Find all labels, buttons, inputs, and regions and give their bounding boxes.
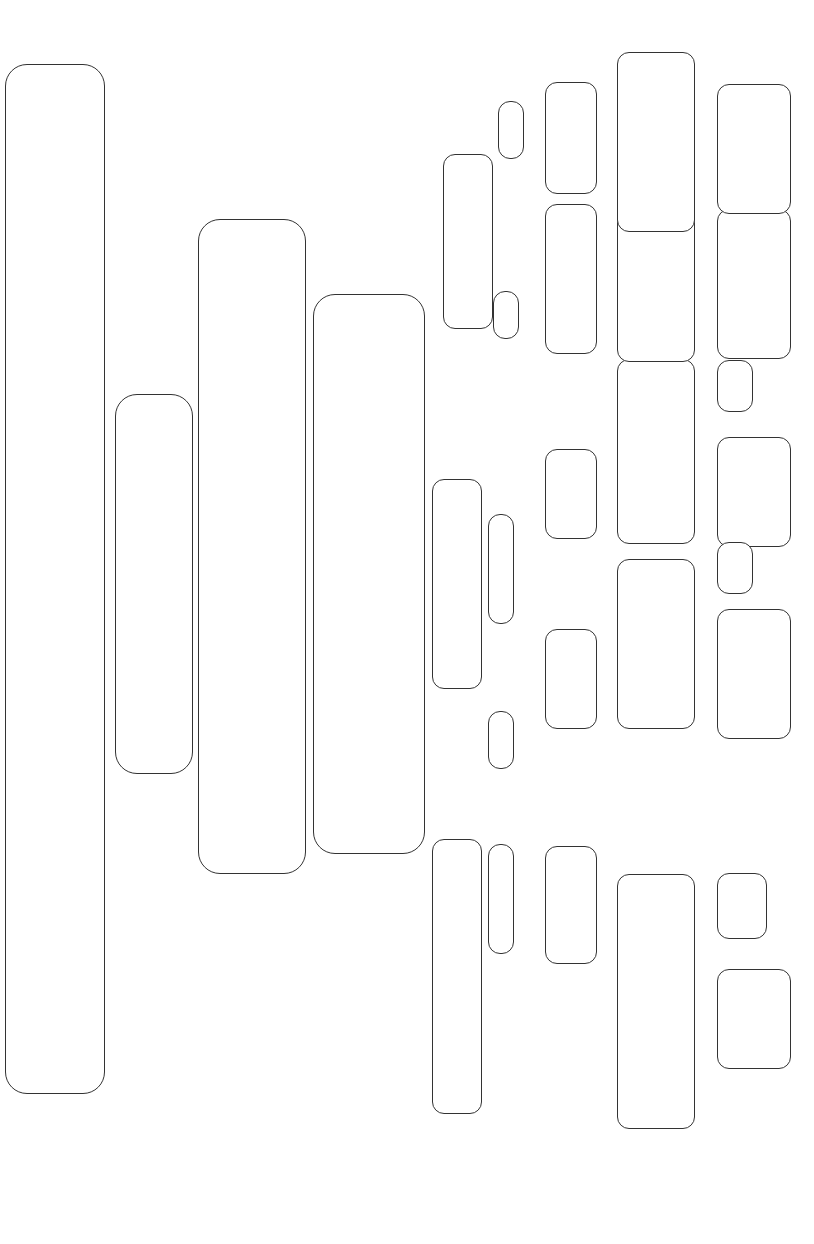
onset-box [432,839,482,1114]
trigger-box [545,82,597,194]
thought-box [617,559,695,729]
underlying-assumptions-box [198,219,306,874]
developmental-experience-box [5,64,105,1094]
behavior-box [717,609,791,739]
problem-depression [488,844,514,954]
problem-ocd [493,291,519,339]
trigger-box [545,846,597,964]
thought-box [617,874,695,1129]
thought-box [617,52,695,232]
thought-box [617,359,695,544]
onset-box [432,479,482,689]
behavior-box [717,209,791,359]
onset-box [443,154,493,329]
emotion-box [717,542,753,594]
behavior-box [717,969,791,1069]
behavior-box [717,437,791,547]
trigger-box [545,449,597,539]
core-beliefs-box [115,394,193,774]
behavior-box [717,84,791,214]
emotion-box [717,873,767,939]
trigger-box [545,204,597,354]
problem-hiv-worry [488,514,514,624]
problem-anger [488,711,514,769]
case-conceptualization-diagram [0,0,814,1244]
trigger-box [545,629,597,729]
strategies-box [313,294,425,854]
problem-decision [498,101,524,159]
emotion-box [717,360,753,412]
